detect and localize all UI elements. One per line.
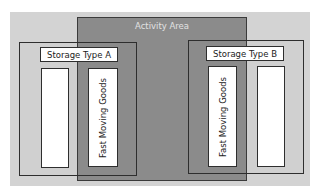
storage-b-fast-moving-bin: Fast Moving Goods (208, 66, 237, 167)
storage-a-fast-moving-bin: Fast Moving Goods (88, 68, 118, 167)
fast-moving-goods-label-a: Fast Moving Goods (98, 77, 108, 157)
storage-b-bin-empty (257, 66, 285, 167)
storage-type-b-label: Storage Type B (206, 46, 284, 61)
fast-moving-goods-label-b: Fast Moving Goods (218, 76, 228, 156)
storage-a-bin-empty (41, 68, 69, 168)
storage-type-a-label: Storage Type A (40, 47, 118, 62)
activity-area-label: Activity Area (77, 21, 247, 31)
storage-type-a-outline (19, 42, 137, 176)
